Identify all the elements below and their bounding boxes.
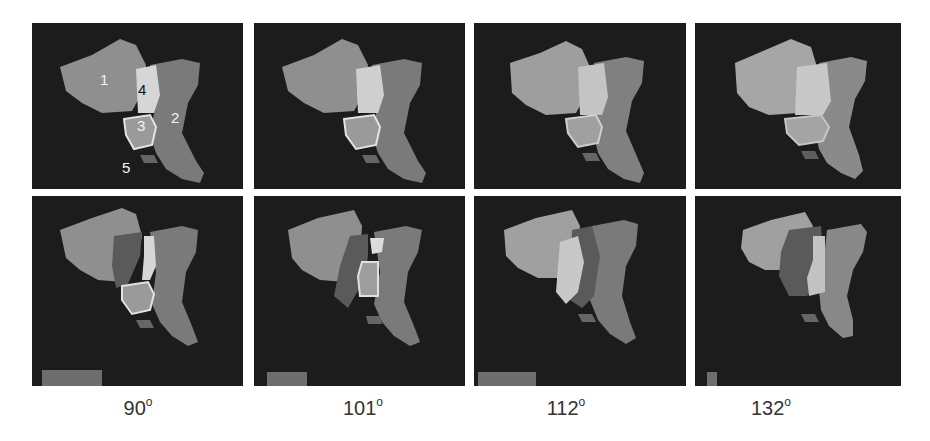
segmentation-image [32,23,243,189]
caption-112: 112o [506,397,626,420]
segmentation-image [695,196,901,386]
panel-bottom-132 [695,196,901,386]
degree-symbol: o [146,395,153,409]
angle-value: 101 [343,397,376,419]
segmentation-image [254,196,465,386]
scale-bar [707,372,717,386]
scale-bar [42,370,102,386]
panel-top-101 [254,23,465,189]
region-label-5: 5 [122,159,130,176]
segmentation-image [474,23,686,189]
angle-value: 132 [751,397,784,419]
panel-bottom-101 [254,196,465,386]
panel-top-112 [474,23,686,189]
segmentation-image [32,196,243,386]
caption-90: 90o [78,397,198,420]
region-label-1: 1 [100,71,108,88]
panel-bottom-112 [474,196,686,386]
caption-132: 132o [711,397,831,420]
panel-top-132 [695,23,901,189]
segmentation-image [695,23,901,189]
region-label-3: 3 [137,117,145,134]
region-label-4: 4 [138,81,146,98]
segmentation-image [254,23,465,189]
degree-symbol: o [376,395,383,409]
angle-value: 112 [547,397,579,419]
region-label-2: 2 [171,109,179,126]
panel-top-90: 1 2 3 4 5 [32,23,243,189]
scale-bar [478,372,536,386]
panel-bottom-90 [32,196,243,386]
caption-101: 101o [303,397,423,420]
scale-bar [267,372,307,386]
angle-value: 90 [124,397,146,419]
degree-symbol: o [579,395,586,409]
degree-symbol: o [784,395,791,409]
segmentation-image [474,196,686,386]
